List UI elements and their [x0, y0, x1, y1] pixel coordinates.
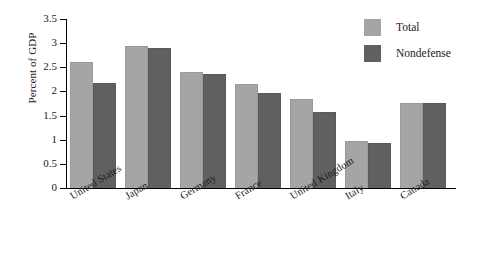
legend-label-total: Total [396, 21, 419, 33]
legend-item-total: Total [364, 16, 451, 38]
legend-item-nondefense: Nondefense [364, 42, 451, 64]
bar-nondefense [148, 48, 171, 188]
chart-figure: Percent of GDP 00.511.522.533.5 United S… [0, 0, 496, 259]
bar-group [180, 19, 226, 188]
y-tick-label: 2.5 [43, 60, 57, 73]
bar-group [290, 19, 336, 188]
bar-total [235, 84, 258, 188]
bar-total [70, 62, 93, 188]
legend-swatch-total-icon [364, 19, 381, 36]
bar-nondefense [368, 143, 391, 188]
bar-group [125, 19, 171, 188]
bar-nondefense [258, 93, 281, 188]
bar-nondefense [203, 74, 226, 188]
bar-total [290, 99, 313, 188]
legend-label-nondefense: Nondefense [396, 47, 451, 59]
y-tick-label: 1.5 [43, 109, 57, 122]
y-axis-title: Percent of GDP [26, 0, 38, 138]
bar-nondefense [423, 103, 446, 188]
y-tick: 0 [60, 188, 66, 189]
y-tick-label: 2 [52, 84, 58, 97]
y-tick-label: 0 [52, 181, 58, 194]
legend-swatch-nondefense-icon [364, 45, 381, 62]
bar-group [235, 19, 281, 188]
bar-total [180, 72, 203, 188]
bar-group [70, 19, 116, 188]
bar-total [400, 103, 423, 188]
y-tick-label: 3.5 [43, 12, 57, 25]
y-tick-label: 1 [52, 133, 58, 146]
y-tick-label: 3 [52, 36, 58, 49]
bar-total [125, 46, 148, 188]
x-axis-line [66, 188, 456, 189]
y-tick-label: 0.5 [43, 157, 57, 170]
chart-legend: Total Nondefense [364, 16, 451, 68]
